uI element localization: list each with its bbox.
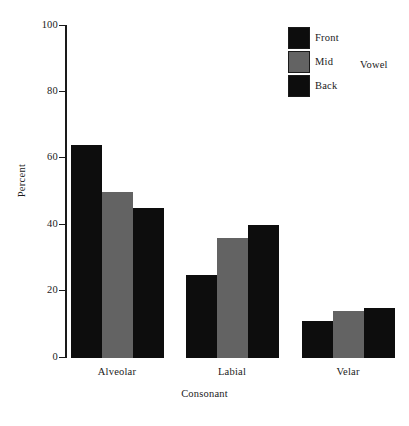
legend: Front Mid Back Vowel xyxy=(288,27,406,105)
x-axis-title: Consonant xyxy=(0,388,409,399)
bar-alveolar-front xyxy=(71,145,102,358)
legend-title: Vowel xyxy=(360,59,388,70)
bar-labial-front xyxy=(186,275,217,358)
bar-velar-back xyxy=(364,308,395,358)
bar-labial-back xyxy=(248,225,279,358)
legend-label-back: Back xyxy=(315,80,337,91)
x-group-label-labial: Labial xyxy=(192,366,272,377)
bar-alveolar-back xyxy=(133,208,164,358)
x-group-label-alveolar: Alveolar xyxy=(77,366,157,377)
legend-swatch-mid xyxy=(288,51,310,73)
legend-label-front: Front xyxy=(315,32,339,43)
legend-swatch-back xyxy=(288,75,310,97)
bar-chart: 100 80 60 40 20 0 Percent Alveolar Labia… xyxy=(0,0,409,426)
legend-label-mid: Mid xyxy=(315,56,333,67)
bar-velar-front xyxy=(302,321,333,358)
x-group-label-velar: Velar xyxy=(308,366,388,377)
bar-labial-mid xyxy=(217,238,248,358)
bar-alveolar-mid xyxy=(102,192,133,359)
bar-velar-mid xyxy=(333,311,364,358)
legend-swatch-front xyxy=(288,27,310,49)
